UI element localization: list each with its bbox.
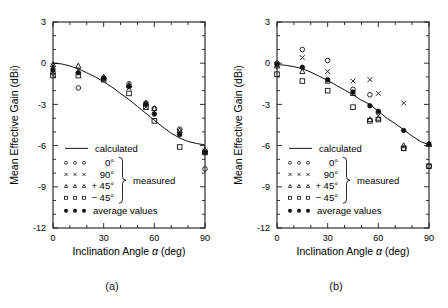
- x-tick-label: 90: [424, 233, 434, 243]
- y-tick-label: -12: [33, 223, 46, 233]
- legend-marker-cross: [74, 173, 77, 176]
- legend-label-average: average values: [93, 205, 158, 216]
- data-point-cross: [300, 55, 305, 60]
- legend-label-calculated: calculated: [95, 143, 138, 154]
- x-tick-label: 90: [200, 233, 210, 243]
- data-point-circle: [76, 86, 81, 91]
- y-tick-label: -6: [262, 141, 270, 151]
- y-tick-label: -12: [257, 223, 270, 233]
- figure-container: 30-3-6-9-120306090Mean Effective Gain (d…: [0, 0, 448, 308]
- data-point-filled: [401, 128, 406, 133]
- legend-marker-cross: [298, 173, 301, 176]
- plot-frame: [53, 22, 205, 228]
- data-point-circle: [325, 58, 330, 63]
- legend-row-m45deg: − 45°: [91, 192, 114, 203]
- y-tick-label: 3: [265, 17, 270, 27]
- legend-label-measured: measured: [133, 175, 175, 186]
- legend-row-90deg: 90°: [324, 169, 339, 180]
- x-tick-label: 30: [99, 233, 109, 243]
- data-point-cross: [376, 91, 381, 96]
- data-point-filled: [368, 103, 373, 108]
- data-point-square: [351, 105, 356, 110]
- panel-caption-a: (a): [0, 280, 224, 292]
- data-point-filled: [427, 142, 432, 147]
- data-point-triangle: [376, 115, 381, 120]
- legend-marker-cross: [307, 173, 310, 176]
- legend-marker-square: [289, 196, 292, 199]
- data-point-filled: [101, 76, 106, 81]
- data-point-triangle: [401, 143, 406, 148]
- legend-marker-filled: [288, 209, 292, 213]
- y-tick-label: -6: [38, 141, 46, 151]
- y-tick-label: -9: [38, 182, 46, 192]
- x-axis-unit: (deg): [382, 245, 409, 257]
- legend-marker-circle: [298, 161, 301, 164]
- plot-a: 30-3-6-9-120306090Mean Effective Gain (d…: [0, 0, 224, 308]
- legend-marker-triangle: [306, 184, 309, 187]
- axis-ticks: [53, 22, 205, 228]
- legend-row-m45deg: − 45°: [315, 192, 338, 203]
- x-axis-unit: (deg): [158, 245, 185, 257]
- axis-ticks: [277, 22, 429, 228]
- data-point-triangle: [76, 63, 81, 68]
- legend: calculated0°90°+ 45°− 45°measuredaverage…: [288, 143, 399, 216]
- data-point-square: [325, 88, 330, 93]
- legend-marker-cross: [83, 173, 86, 176]
- legend-marker-circle: [307, 161, 310, 164]
- legend-marker-square: [298, 196, 301, 199]
- legend-brace: [343, 157, 350, 203]
- data-point-cross: [325, 69, 330, 74]
- legend-label-calculated: calculated: [319, 143, 362, 154]
- data-point-square: [127, 91, 132, 96]
- data-point-filled: [351, 90, 356, 95]
- legend-marker-square: [307, 196, 310, 199]
- data-point-filled: [76, 71, 81, 76]
- legend-marker-cross: [289, 173, 292, 176]
- data-point-cross: [401, 101, 406, 106]
- legend-marker-square: [74, 196, 77, 199]
- y-axis-label: Mean Effective Gain (dBi): [232, 65, 244, 184]
- x-tick-label: 60: [149, 233, 159, 243]
- legend-marker-square: [65, 196, 68, 199]
- chart-panel-b: 30-3-6-9-120306090Mean Effective Gain (d…: [224, 0, 448, 308]
- legend-marker-filled: [82, 209, 86, 213]
- legend-marker-filled: [297, 209, 301, 213]
- legend-marker-filled: [306, 209, 310, 213]
- data-point-circle: [300, 47, 305, 52]
- panel-caption-b: (b): [224, 280, 448, 292]
- x-axis-label: Inclination Angle α (deg): [73, 245, 186, 257]
- legend-marker-triangle: [288, 184, 291, 187]
- data-point-circle: [368, 92, 373, 97]
- legend-brace: [119, 157, 126, 203]
- data-point-cross: [351, 79, 356, 84]
- legend-marker-square: [83, 196, 86, 199]
- plot-b: 30-3-6-9-120306090Mean Effective Gain (d…: [224, 0, 448, 308]
- legend-label-measured: measured: [357, 175, 399, 186]
- legend-marker-triangle: [64, 184, 67, 187]
- legend-marker-filled: [73, 209, 77, 213]
- x-tick-label: 30: [323, 233, 333, 243]
- legend-marker-circle: [65, 161, 68, 164]
- legend-marker-filled: [64, 209, 68, 213]
- series-open-square: [275, 72, 432, 169]
- legend-marker-circle: [83, 161, 86, 164]
- x-tick-label: 0: [274, 233, 279, 243]
- data-point-filled: [144, 102, 149, 107]
- x-tick-label: 60: [373, 233, 383, 243]
- data-point-filled: [51, 68, 56, 73]
- legend-marker-cross: [65, 173, 68, 176]
- legend-marker-triangle: [297, 184, 300, 187]
- data-point-filled: [300, 65, 305, 70]
- x-tick-label: 0: [50, 233, 55, 243]
- x-axis-label: Inclination Angle α (deg): [297, 245, 410, 257]
- legend-row-p45deg: + 45°: [91, 180, 114, 191]
- data-point-filled: [127, 84, 132, 89]
- data-point-square: [300, 79, 305, 84]
- legend-label-average: average values: [317, 205, 382, 216]
- legend-row-p45deg: + 45°: [315, 180, 338, 191]
- legend-marker-circle: [74, 161, 77, 164]
- data-point-filled: [275, 62, 280, 67]
- data-point-square: [177, 145, 182, 150]
- data-point-triangle: [367, 117, 372, 122]
- y-tick-label: -3: [38, 100, 46, 110]
